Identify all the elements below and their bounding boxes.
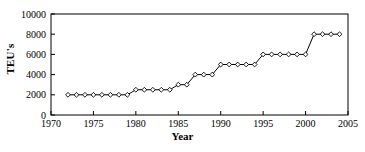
x-tick-label: 2005: [338, 118, 358, 129]
x-tick-label: 1990: [211, 118, 231, 129]
x-tick-label: 2000: [296, 118, 316, 129]
x-tick-label: 1970: [41, 118, 61, 129]
x-axis-label: Year: [0, 130, 365, 142]
x-axis-label-text: Year: [172, 130, 194, 142]
y-tick-label: 4000: [26, 69, 46, 80]
plot-background: [51, 14, 348, 115]
y-tick-label: 6000: [26, 49, 46, 60]
x-tick-label: 1985: [168, 118, 188, 129]
y-axis-ticks: 0200040006000800010000: [21, 9, 55, 121]
y-tick-label: 10000: [21, 9, 46, 20]
y-tick-label: 2000: [26, 89, 46, 100]
x-tick-label: 1995: [253, 118, 273, 129]
y-tick-label: 8000: [26, 29, 46, 40]
x-tick-label: 1980: [126, 118, 146, 129]
x-tick-label: 1975: [83, 118, 103, 129]
chart-figure: TEU's 0200040006000800010000 19701975198…: [0, 0, 365, 152]
